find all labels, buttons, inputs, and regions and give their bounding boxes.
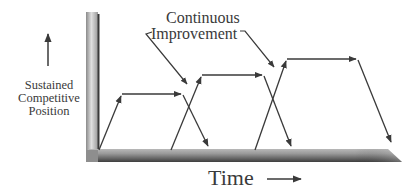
cycle-2-path	[171, 75, 291, 150]
cycle-1-path	[99, 94, 208, 150]
x-axis-label: Time	[208, 167, 254, 189]
annotation-line-1: Continuous	[166, 10, 240, 26]
improvement-diagram: Sustained Competitive Position Continuou…	[0, 0, 416, 193]
annotation-line-2: Improvement	[151, 26, 237, 42]
x-axis-bar	[86, 149, 402, 162]
y-axis-label-line-3: Position	[4, 105, 94, 118]
y-axis-label: Sustained Competitive Position	[4, 79, 94, 118]
